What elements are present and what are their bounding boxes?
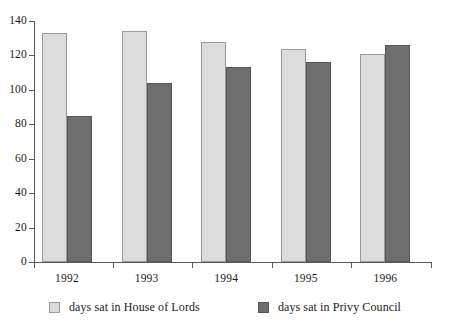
y-axis-tick [29, 90, 34, 91]
bar-1995-series-0 [281, 49, 306, 262]
y-axis-tick-label: 0 [21, 256, 27, 268]
plot-area: 02040608010012014019921993199419951996 [34, 21, 432, 262]
y-axis-tick [29, 228, 34, 229]
y-axis-tick-label: 20 [15, 222, 27, 234]
y-axis-tick-label: 60 [15, 153, 27, 165]
bar-1996-series-1 [385, 45, 410, 262]
x-axis-tick [351, 262, 352, 268]
x-axis-tick-label-1996: 1996 [373, 273, 397, 285]
legend-entry-1[interactable]: days sat in Privy Council [258, 301, 401, 313]
bar-1995-series-1 [306, 62, 331, 262]
x-axis-origin-tick [34, 262, 35, 268]
legend-label: days sat in House of Lords [69, 301, 200, 313]
bar-1994-series-0 [201, 42, 226, 262]
y-axis-tick-label: 80 [15, 119, 27, 131]
y-axis-tick [29, 193, 34, 194]
bar-1996-series-0 [360, 54, 385, 262]
x-axis-tick-label-1995: 1995 [294, 273, 318, 285]
legend-entry-0[interactable]: days sat in House of Lords [49, 301, 200, 313]
bar-1993-series-1 [147, 83, 172, 262]
bar-1992-series-1 [67, 116, 92, 262]
x-axis-tick-label-1993: 1993 [135, 273, 159, 285]
y-axis-tick-label: 120 [9, 50, 27, 62]
y-axis-tick [29, 124, 34, 125]
bar-1993-series-0 [122, 31, 147, 262]
y-axis-tick [29, 55, 34, 56]
y-axis-tick [29, 21, 34, 22]
legend-swatch-icon [258, 302, 269, 313]
x-axis-tick [192, 262, 193, 268]
y-axis-tick-label: 40 [15, 187, 27, 199]
x-axis-tick [431, 262, 432, 268]
bar-1994-series-1 [226, 67, 251, 262]
y-axis-tick-label: 140 [9, 15, 27, 27]
y-axis-tick-label: 100 [9, 84, 27, 96]
legend-label: days sat in Privy Council [278, 301, 401, 313]
bar-chart: 02040608010012014019921993199419951996 d… [0, 0, 450, 327]
chart-legend: days sat in House of Lordsdays sat in Pr… [0, 295, 450, 319]
bar-1992-series-0 [42, 33, 67, 262]
legend-swatch-icon [49, 302, 60, 313]
x-axis-tick-label-1994: 1994 [214, 273, 238, 285]
y-axis-tick [29, 159, 34, 160]
x-axis-tick [272, 262, 273, 268]
x-axis-tick [113, 262, 114, 268]
x-axis-line [34, 262, 432, 263]
x-axis-tick-label-1992: 1992 [55, 273, 79, 285]
